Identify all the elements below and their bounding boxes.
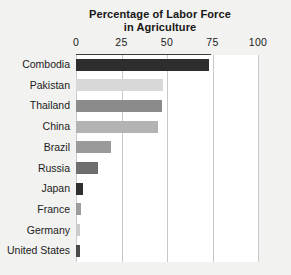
bar-russia	[76, 162, 98, 174]
bar-china	[76, 121, 158, 133]
bar-label-brazil: Brazil	[0, 141, 70, 153]
x-tick-label-75: 75	[206, 36, 218, 48]
bar-row: United States	[0, 241, 291, 262]
chart-title-line-1: Percentage of Labor Force	[89, 8, 231, 20]
x-axis-tick-labels: 0255075100	[0, 36, 291, 50]
x-tick-label-0: 0	[73, 36, 79, 48]
bar-thailand	[76, 100, 162, 112]
bar-label-germany: Germany	[0, 224, 70, 236]
bar-brazil	[76, 141, 111, 153]
bar-label-japan: Japan	[0, 182, 70, 194]
x-tick-label-50: 50	[161, 36, 173, 48]
bar-row: Russia	[0, 159, 291, 180]
bar-france	[76, 203, 81, 215]
chart-title-line-2: in Agriculture	[60, 21, 260, 34]
bar-label-thailand: Thailand	[0, 99, 70, 111]
bar-united-states	[76, 245, 80, 257]
bar-row: Pakistan	[0, 76, 291, 97]
x-tick-label-25: 25	[115, 36, 127, 48]
bar-row: China	[0, 117, 291, 138]
bar-row: France	[0, 200, 291, 221]
bar-germany	[76, 224, 80, 236]
x-tick-label-100: 100	[249, 36, 267, 48]
bar-label-russia: Russia	[0, 162, 70, 174]
bar-chart: Percentage of Labor Force in Agriculture…	[0, 0, 291, 275]
bar-combodia	[76, 59, 209, 71]
bar-label-united-states: United States	[0, 244, 70, 256]
bar-japan	[76, 183, 83, 195]
bar-row: Germany	[0, 221, 291, 242]
bar-pakistan	[76, 79, 163, 91]
bar-row: Japan	[0, 179, 291, 200]
chart-title: Percentage of Labor Force in Agriculture	[60, 8, 260, 34]
bar-label-combodia: Combodia	[0, 58, 70, 70]
bar-label-pakistan: Pakistan	[0, 79, 70, 91]
bar-label-china: China	[0, 120, 70, 132]
bar-row: Thailand	[0, 96, 291, 117]
bar-row: Combodia	[0, 55, 291, 76]
bar-label-france: France	[0, 203, 70, 215]
bar-row: Brazil	[0, 138, 291, 159]
